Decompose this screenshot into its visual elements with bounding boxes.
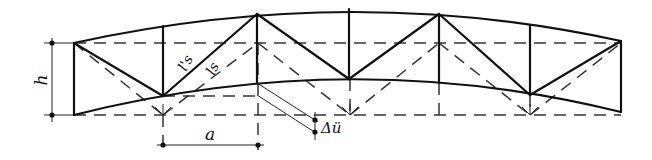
undeformed-diagonal [530,43,621,115]
diagonal [74,43,163,96]
diagonal-ls-prime [163,14,257,96]
dimension-deflection: Δü [257,83,342,140]
truss-svg: h a Δü l's ls [0,0,652,160]
label-delta-u: Δü [320,119,342,137]
deformed-truss [74,9,621,115]
deformed-top-chord [74,12,621,43]
dimension-a: a [157,124,264,148]
truss-diagram: h a Δü l's ls [0,0,652,160]
node-arrow-icon [342,104,358,115]
diagonal [349,14,439,79]
diagonal [257,14,349,79]
node-arrow-icon [522,104,538,115]
label-a: a [205,124,215,144]
label-h: h [31,75,51,86]
diagonal [530,41,621,95]
label-ls: ls [203,60,223,78]
node-arrow-icon [155,104,171,115]
dimension-h: h [31,38,74,122]
